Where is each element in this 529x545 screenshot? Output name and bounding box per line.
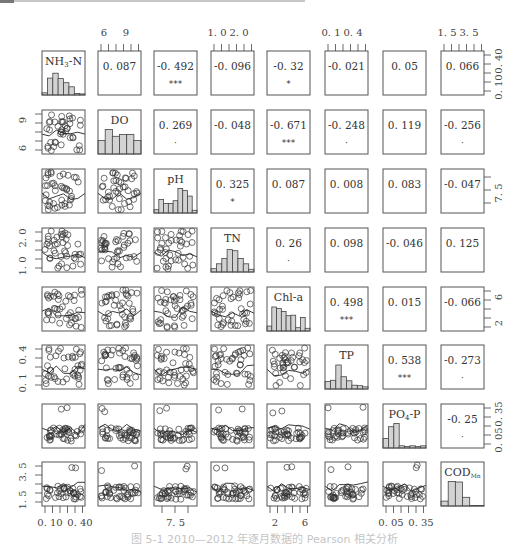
data-point xyxy=(352,486,358,492)
correlation-panel: -0. 047 xyxy=(441,169,484,213)
correlation-panel: 0. 087 xyxy=(98,51,141,95)
data-point xyxy=(55,312,61,318)
correlation-panel: 0. 538*** xyxy=(383,345,426,389)
axis-tick-label: 2. 0 xyxy=(17,228,28,247)
histogram-bar xyxy=(120,134,127,154)
variable-label: DO xyxy=(111,114,129,127)
data-point xyxy=(289,464,295,470)
scatter-panel xyxy=(211,345,254,389)
data-point xyxy=(71,298,77,304)
correlation-panel: -0. 096 xyxy=(211,51,254,95)
data-point xyxy=(55,297,61,303)
scatter-panel xyxy=(325,462,368,506)
axis-tick-label: 6 xyxy=(302,517,308,528)
data-point xyxy=(72,292,78,298)
variable-label: NH3-N xyxy=(45,55,82,69)
correlation-value: -0. 492 xyxy=(157,60,194,72)
scatter-panel xyxy=(267,404,310,448)
histogram-bar xyxy=(159,199,164,213)
histogram-bar xyxy=(127,134,134,154)
histogram-bar xyxy=(272,307,277,331)
axis-tick-label: 2. 0 xyxy=(229,27,248,38)
data-point xyxy=(62,366,68,372)
data-point xyxy=(53,353,59,359)
data-point xyxy=(42,247,48,253)
data-point xyxy=(78,261,84,267)
diagonal-panel-CODMn: CODMn xyxy=(441,462,484,506)
data-point xyxy=(132,237,138,243)
data-point xyxy=(218,381,224,387)
data-point xyxy=(99,258,105,264)
data-point xyxy=(229,318,235,324)
histogram-bar xyxy=(341,377,346,389)
data-point xyxy=(126,300,132,306)
data-point xyxy=(230,294,236,300)
data-point xyxy=(297,383,303,389)
axis-tick-label: 6 xyxy=(493,294,504,300)
data-point xyxy=(106,256,112,262)
data-point xyxy=(78,287,84,293)
correlation-value: 0. 087 xyxy=(103,60,136,72)
histogram-bar xyxy=(233,251,238,272)
data-point xyxy=(164,349,170,355)
correlation-panel: -0. 256· xyxy=(441,110,484,154)
significance-stars: · xyxy=(287,256,290,266)
data-point xyxy=(362,434,368,440)
data-point xyxy=(164,405,170,411)
significance-stars: · xyxy=(461,432,464,442)
panel-frame xyxy=(267,462,310,506)
histogram-bar xyxy=(267,326,272,331)
correlation-panel: 0. 26· xyxy=(267,228,310,272)
correlation-value: -0. 671 xyxy=(270,119,307,131)
scatter-panel xyxy=(98,228,141,272)
correlation-value: -0. 048 xyxy=(214,119,251,131)
data-point xyxy=(238,306,244,312)
variable-label: CODMn xyxy=(444,466,480,479)
histogram-bar xyxy=(243,264,248,272)
scatter-panel xyxy=(98,462,141,506)
data-point xyxy=(134,484,140,490)
data-point xyxy=(272,351,278,357)
axis-tick-label: 0. 1 xyxy=(321,27,340,38)
data-point xyxy=(212,346,218,352)
data-point xyxy=(58,142,64,148)
data-point xyxy=(125,188,131,194)
correlation-value: -0. 096 xyxy=(214,60,251,72)
histogram-bar xyxy=(47,78,52,95)
axis-tick-label: 1. 0 xyxy=(207,27,226,38)
correlation-panel: -0. 021 xyxy=(325,51,368,95)
data-point xyxy=(302,345,308,351)
correlation-value: 0. 05 xyxy=(391,60,418,72)
data-point xyxy=(189,494,195,500)
histogram-bar xyxy=(325,381,330,389)
axis-tick-label: 1. 5 xyxy=(17,490,28,509)
correlation-panel: 0. 125 xyxy=(441,228,484,272)
data-point xyxy=(247,378,253,384)
panel-frame xyxy=(211,51,254,95)
correlation-panel: -0. 273· xyxy=(441,345,484,389)
histogram-bar xyxy=(168,204,173,214)
significance-stars: · xyxy=(345,138,348,148)
data-point xyxy=(214,465,220,471)
scatter-panel xyxy=(42,462,85,506)
data-point xyxy=(292,364,298,370)
significance-stars: · xyxy=(461,373,464,383)
data-point xyxy=(111,185,117,191)
data-point xyxy=(176,350,182,356)
data-point xyxy=(65,354,71,360)
correlation-panel: -0. 048 xyxy=(211,110,254,154)
data-point xyxy=(133,374,139,380)
histogram-bar xyxy=(69,87,74,95)
scatter-panel xyxy=(383,462,426,506)
data-point xyxy=(159,288,165,294)
correlation-panel: 0. 087 xyxy=(267,169,310,213)
panel-frame xyxy=(98,51,141,95)
correlation-value: 0. 498 xyxy=(330,296,363,308)
diagonal-panel-TN: TN xyxy=(211,228,254,272)
correlation-panel: -0. 25· xyxy=(441,404,484,448)
data-point xyxy=(134,290,140,296)
correlation-panel: 0. 325* xyxy=(211,169,254,213)
significance-stars: · xyxy=(461,138,464,148)
variable-label: TP xyxy=(339,349,354,362)
data-point xyxy=(166,380,172,386)
